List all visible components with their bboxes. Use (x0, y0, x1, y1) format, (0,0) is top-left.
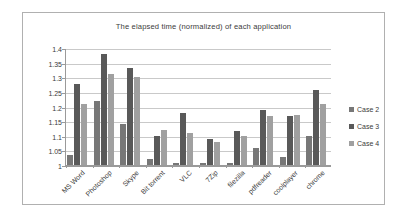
y-axis-tick-label: 1.25 (48, 89, 62, 96)
y-axis-tick-label: 1.05 (48, 148, 62, 155)
legend-swatch-icon (349, 107, 354, 112)
legend-item[interactable]: Case 3 (349, 118, 399, 135)
legend-item[interactable]: Case 4 (349, 135, 399, 152)
x-axis-category-label-text: Bit torrent (140, 169, 166, 195)
plot-area (65, 49, 331, 166)
x-axis-category-label-text: 7Zip (205, 169, 220, 184)
bar (108, 74, 114, 165)
bar (207, 139, 213, 165)
bar (187, 133, 193, 165)
bar (67, 155, 73, 165)
legend-item[interactable]: Case 2 (349, 101, 399, 118)
bar-group (279, 49, 306, 165)
bar-group (226, 49, 253, 165)
chart-title: The elapsed time (normalized) of each ap… (23, 22, 384, 31)
legend-swatch-icon (349, 124, 354, 129)
x-axis-category-label-text: filezilla (226, 169, 246, 189)
bar (81, 104, 87, 165)
y-axis-line (65, 49, 66, 166)
bar-group (66, 49, 93, 165)
legend-swatch-icon (349, 141, 354, 146)
x-axis-category-labels: MS WordPhotoshopSkypeBit torrentVLC7Zipf… (65, 166, 331, 216)
bar (241, 136, 247, 165)
bar (161, 130, 167, 165)
x-axis-category-label-text: pdfreader (246, 169, 272, 195)
bar-group (252, 49, 279, 165)
y-axis-tick-labels: 1.41.351.31.251.21.151.11.051 (23, 49, 62, 166)
chart-frame: The elapsed time (normalized) of each ap… (22, 12, 385, 205)
y-axis-tick-label: 1.1 (52, 133, 62, 140)
bar-series-container (66, 49, 331, 165)
bar (134, 77, 140, 165)
legend-label: Case 2 (357, 106, 379, 113)
x-axis-category-label-text: VLC (178, 169, 193, 184)
y-axis-tick-label: 1.15 (48, 119, 62, 126)
chart-legend: Case 2Case 3Case 4 (349, 101, 399, 152)
bar-group (93, 49, 120, 165)
bar (214, 142, 220, 165)
y-axis-tick-label: 1.3 (52, 75, 62, 82)
bar (154, 136, 160, 165)
bar-group (146, 49, 173, 165)
y-axis-tick-label: 1.2 (52, 104, 62, 111)
bar-group (199, 49, 226, 165)
bar (74, 84, 80, 165)
x-axis-category-label-text: Skype (121, 169, 140, 188)
y-axis-tick-label: 1.35 (48, 60, 62, 67)
bar (267, 116, 273, 165)
legend-label: Case 3 (357, 123, 379, 130)
x-axis-category-label-text: chrome (304, 169, 325, 190)
y-axis-tick-label: 1.4 (52, 46, 62, 53)
legend-label: Case 4 (357, 140, 379, 147)
bar (260, 110, 266, 165)
bar (320, 104, 326, 165)
bar (234, 131, 240, 166)
bar (294, 115, 300, 165)
bar-group (172, 49, 199, 165)
x-axis-category-label-text: MS Word (61, 169, 86, 194)
x-axis-category-label-text: Photoshop (84, 169, 113, 198)
x-axis-category-label-text: coolplayer (272, 169, 300, 197)
